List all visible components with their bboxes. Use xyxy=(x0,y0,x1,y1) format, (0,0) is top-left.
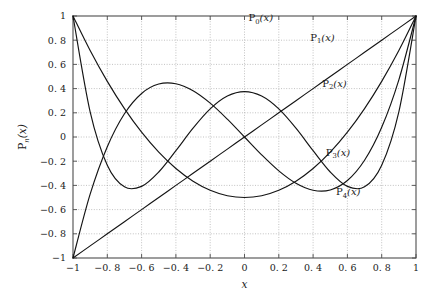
x-axis-tick-labels: −1−0. 8−0. 6−0. 4−0. 200. 20. 40. 60. 81 xyxy=(66,262,419,273)
x-tick-label: 0. 8 xyxy=(373,262,391,273)
curve-label-p2x: P2(x) xyxy=(322,78,347,92)
y-tick-label: −0. 6 xyxy=(40,204,66,215)
y-tick-label: −0. 2 xyxy=(40,156,66,167)
x-tick-label: 0. 6 xyxy=(338,262,356,273)
y-tick-label: 0. 4 xyxy=(48,83,66,94)
y-tick-label: −1 xyxy=(52,252,66,263)
x-tick-label: −0. 8 xyxy=(94,262,120,273)
curve-label-p0x: P0(x) xyxy=(249,12,274,26)
y-tick-label: 0. 6 xyxy=(48,59,66,70)
x-tick-label: 0. 4 xyxy=(304,262,322,273)
y-tick-label: 0 xyxy=(60,131,66,142)
y-axis-title-text: Pn(x) xyxy=(16,124,31,150)
x-tick-label: −0. 4 xyxy=(163,262,189,273)
y-tick-label: 0. 2 xyxy=(48,107,66,118)
x-axis-title: x xyxy=(242,278,248,290)
y-tick-label: 0. 8 xyxy=(48,35,66,46)
curve-label-p4x: P4(x) xyxy=(336,186,361,200)
x-tick-label: −0. 6 xyxy=(129,262,155,273)
chart-canvas: −1−0. 8−0. 6−0. 4−0. 200. 20. 40. 60. 81… xyxy=(0,0,435,300)
x-tick-label: −0. 2 xyxy=(197,262,223,273)
curve-label-p1x: P1(x) xyxy=(310,32,335,46)
x-tick-label: −1 xyxy=(66,262,80,273)
y-tick-label: 1 xyxy=(60,10,66,21)
x-tick-label: 0 xyxy=(241,262,247,273)
curve-label-p3x: P3(x) xyxy=(326,147,351,161)
legendre-polynomial-chart: −1−0. 8−0. 6−0. 4−0. 200. 20. 40. 60. 81… xyxy=(0,0,435,300)
y-tick-label: −0. 4 xyxy=(40,180,66,191)
y-axis-tick-labels: 10. 80. 60. 40. 20−0. 2−0. 4−0. 6−0. 8−1 xyxy=(40,10,66,263)
x-tick-label: 1 xyxy=(413,262,419,273)
y-axis-title: Pn(x) xyxy=(16,124,31,150)
x-tick-label: 0. 2 xyxy=(270,262,288,273)
curve-annotations: P0(x)P1(x)P2(x)P3(x)P4(x) xyxy=(249,12,361,199)
y-tick-label: −0. 8 xyxy=(40,228,66,239)
